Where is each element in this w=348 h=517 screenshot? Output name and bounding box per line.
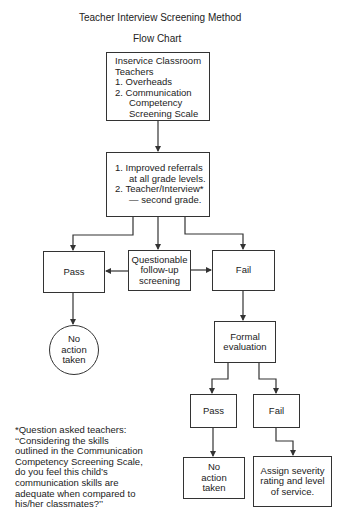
box-line: Competency [115,98,209,109]
assign-severity-box: Assign severity rating and level of serv… [253,456,332,507]
box-line: evaluation [223,342,266,353]
fail-box: Fail [212,250,275,291]
box-line: — second grade. [115,195,209,206]
box-line: Inservice Classroom [115,56,209,67]
box-line: 1. Improved referrals [115,163,209,174]
referrals-box: 1. Improved referrals at all grade level… [106,152,210,217]
footnote-line: his/her classmates?’’ [15,499,143,510]
box-label: Fail [236,265,251,276]
box-line: 1. Overheads [115,77,209,88]
questionable-followup-box: Questionable follow-up screening [128,250,191,291]
eval-fail-box: Fail [253,394,300,428]
box-line: taken [202,483,225,494]
footnote-line: *Question asked teachers: [15,425,143,436]
box-label: Fail [269,406,284,417]
footnote: *Question asked teachers: ‘‘Considering … [15,425,143,510]
box-line: of service. [271,487,314,498]
box-label: Pass [63,267,84,278]
box-line: 2. Teacher/Interview* [115,184,209,195]
pass-box: Pass [43,251,105,293]
inservice-teachers-box: Inservice Classroom Teachers 1. Overhead… [106,52,210,121]
no-action-circle: No action taken [49,325,99,375]
eval-no-action-box: No action taken [183,457,245,499]
formal-evaluation-box: Formal evaluation [214,321,276,363]
eval-pass-box: Pass [190,394,237,428]
box-line: Screening Scale [115,109,209,120]
footnote-line: communication skills are [15,478,143,489]
circle-line: taken [62,355,85,366]
box-label: Pass [203,406,224,417]
box-line: screening [139,276,180,287]
